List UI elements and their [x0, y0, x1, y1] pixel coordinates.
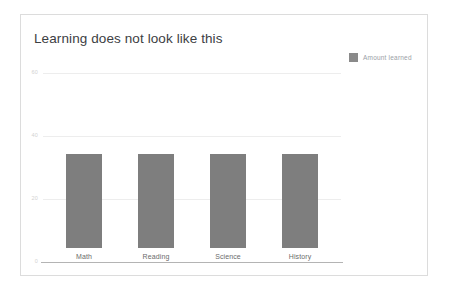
x-axis-tick-label-reading: Reading [122, 253, 190, 260]
x-axis-tick-label-history: History [266, 253, 334, 260]
y-axis-tick-label: 40 [21, 132, 38, 138]
bar-series-amount-learned: Math Reading Science History [43, 15, 341, 277]
y-axis-tick-label: 0 [21, 258, 38, 264]
bar-science[interactable] [210, 154, 246, 249]
bar-group-math: Math [50, 15, 118, 277]
y-axis-tick-label: 60 [21, 69, 38, 75]
bar-group-science: Science [194, 15, 262, 277]
bar-history[interactable] [282, 154, 318, 249]
bar-reading[interactable] [138, 154, 174, 249]
plot-area: 60 40 20 0 Math [21, 15, 429, 277]
x-axis-tick-label-science: Science [194, 253, 262, 260]
bar-group-reading: Reading [122, 15, 190, 277]
x-axis-tick-label-math: Math [50, 253, 118, 260]
bar-math[interactable] [66, 154, 102, 249]
chart-card: Learning does not look like this Amount … [20, 14, 428, 276]
bar-group-history: History [266, 15, 334, 277]
y-axis-tick-label: 20 [21, 195, 38, 201]
screenshot-root: Learning does not look like this Amount … [0, 0, 449, 288]
